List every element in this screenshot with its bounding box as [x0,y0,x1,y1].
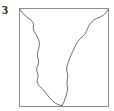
panel-figure-svg [0,0,114,111]
figure-panel: 3 [0,0,114,111]
